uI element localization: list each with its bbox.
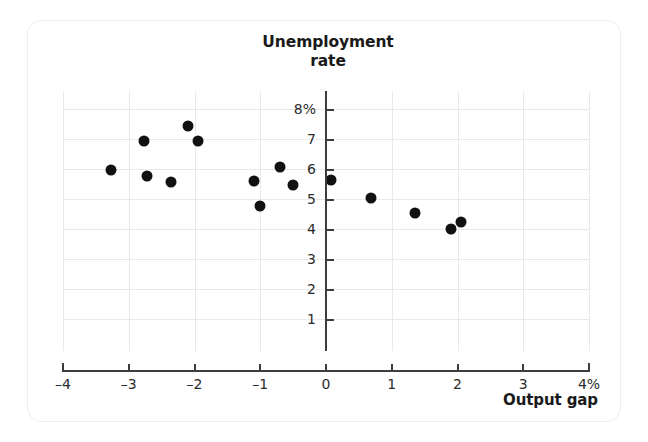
x-axis-tick [325,364,327,372]
gridline-vertical [129,91,130,351]
x-axis-label: 0 [322,376,331,392]
x-axis-tick [522,364,524,372]
chart-card: Unemployment rate Output gap 12345678%–4… [27,20,621,422]
gridline-vertical [523,91,524,351]
gridline-vertical [63,91,64,351]
x-axis-label: –1 [252,376,268,392]
data-point [138,135,149,146]
data-point [248,176,259,187]
data-point [166,176,177,187]
x-axis-label: –2 [187,376,203,392]
y-axis-label: 1 [307,311,316,327]
x-axis-label: –3 [121,376,137,392]
y-axis-label: 5 [307,191,316,207]
gridline-vertical [589,91,590,351]
data-point [105,164,116,175]
x-axis-tick [588,363,590,372]
gridline-vertical [195,91,196,351]
data-point [326,175,337,186]
data-point [455,217,466,228]
data-point [255,200,266,211]
x-axis-tick [128,364,130,372]
x-axis-label: 2 [453,376,462,392]
data-point [445,224,456,235]
data-point [182,120,193,131]
data-point [274,161,285,172]
y-axis-line [325,91,327,351]
x-axis-tick [62,363,64,372]
x-axis-title: Output gap [503,391,598,409]
x-axis-label: 4% [578,376,600,392]
x-axis-tick [194,364,196,372]
x-axis-tick [259,364,261,372]
x-axis-tick [457,364,459,372]
y-axis-label: 6 [307,161,316,177]
x-axis-label: 1 [387,376,396,392]
data-point [192,136,203,147]
y-axis-label: 2 [307,281,316,297]
chart-title-line-1: Unemployment [34,33,622,52]
y-axis-label: 7 [307,131,316,147]
data-point [142,170,153,181]
y-axis-label: 3 [307,251,316,267]
data-point [409,208,420,219]
data-point [288,179,299,190]
x-axis-label: –4 [55,376,71,392]
gridline-vertical [392,91,393,351]
x-axis-tick [391,364,393,372]
gridline-vertical [260,91,261,351]
x-axis-label: 3 [519,376,528,392]
y-axis-label: 4 [307,221,316,237]
chart-title: Unemployment rate [28,33,622,71]
y-axis-label: 8% [294,101,316,117]
chart-title-line-2: rate [34,52,622,71]
data-point [365,193,376,204]
